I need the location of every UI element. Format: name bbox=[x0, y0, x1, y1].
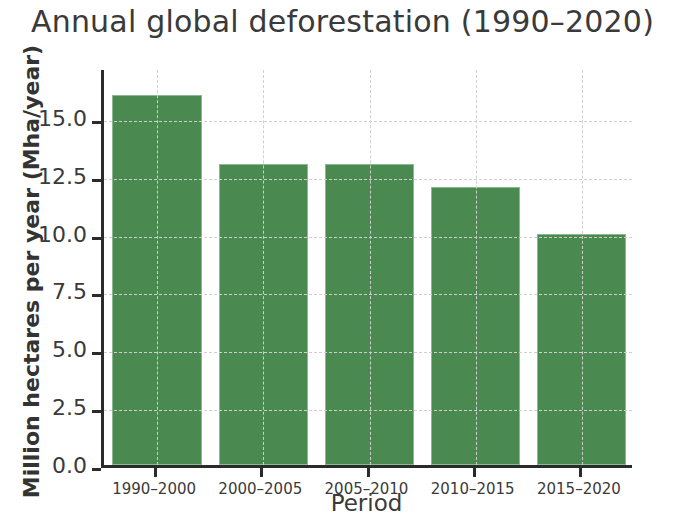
x-tick-mark bbox=[260, 468, 263, 477]
y-tick-label: 7.5 bbox=[0, 279, 87, 304]
y-tick-mark bbox=[92, 352, 101, 355]
x-tick-mark bbox=[579, 468, 582, 477]
gridline-vertical bbox=[370, 70, 371, 465]
y-tick-mark bbox=[92, 294, 101, 297]
y-tick-label: 15.0 bbox=[0, 106, 87, 131]
gridline-horizontal bbox=[104, 294, 632, 295]
y-tick-mark bbox=[92, 237, 101, 240]
y-tick-mark bbox=[92, 468, 101, 471]
y-tick-label: 0.0 bbox=[0, 453, 87, 478]
gridline-horizontal bbox=[104, 237, 632, 238]
gridline-vertical bbox=[476, 70, 477, 465]
y-tick-mark bbox=[92, 121, 101, 124]
gridline-horizontal bbox=[104, 410, 632, 411]
gridline-vertical bbox=[263, 70, 264, 465]
y-tick-label: 10.0 bbox=[0, 222, 87, 247]
y-tick-label: 12.5 bbox=[0, 164, 87, 189]
y-tick-label: 5.0 bbox=[0, 337, 87, 362]
gridline-vertical bbox=[582, 70, 583, 465]
gridline-horizontal bbox=[104, 179, 632, 180]
gridline-horizontal bbox=[104, 352, 632, 353]
y-axis: 0.02.55.07.510.012.515.0 bbox=[0, 70, 101, 468]
y-tick-label: 2.5 bbox=[0, 395, 87, 420]
bar-series bbox=[104, 70, 632, 465]
x-tick-mark bbox=[154, 468, 157, 477]
x-tick-mark bbox=[367, 468, 370, 477]
x-axis-title: Period bbox=[101, 490, 632, 516]
gridline-horizontal bbox=[104, 121, 632, 122]
gridline-vertical bbox=[157, 70, 158, 465]
y-tick-mark bbox=[92, 179, 101, 182]
chart-title: Annual global deforestation (1990–2020) bbox=[0, 4, 685, 39]
plot-area bbox=[101, 70, 632, 468]
deforestation-bar-chart-figure: Annual global deforestation (1990–2020) … bbox=[0, 0, 685, 522]
x-tick-mark bbox=[473, 468, 476, 477]
y-tick-mark bbox=[92, 410, 101, 413]
